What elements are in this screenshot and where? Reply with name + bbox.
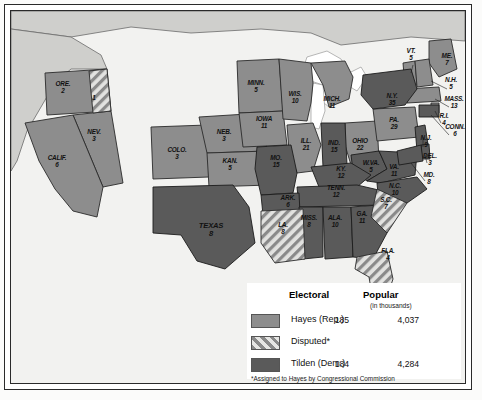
state-indiana: [321, 123, 347, 167]
legend-electoral-hayes: 185: [309, 315, 349, 325]
state-missouri: [255, 145, 297, 195]
legend-swatch-disputed: [251, 336, 280, 350]
legend-label-disputed: Disputed*: [291, 336, 330, 346]
legend-col-popular: Popular: [363, 289, 398, 300]
legend-swatch-tilden: [251, 358, 280, 372]
map-legend: Electoral Popular (in thousands) Hayes (…: [247, 283, 461, 379]
map-inner-frame: ORE.21NEV.3CALIF.6COLO.3NEB.3KAN.5TEXAS8…: [10, 10, 466, 384]
legend-popular-subtitle: (in thousands): [370, 302, 412, 309]
legend-col-electoral: Electoral: [289, 289, 329, 300]
state-iowa: [239, 111, 287, 147]
legend-popular-hayes: 4,037: [377, 315, 419, 325]
legend-electoral-tilden: 184: [309, 359, 349, 369]
map-outer-frame: ORE.21NEV.3CALIF.6COLO.3NEB.3KAN.5TEXAS8…: [4, 4, 472, 390]
state-wisconsin: [279, 59, 313, 121]
state-pennsylvania: [373, 107, 419, 141]
state-alabama: [323, 207, 353, 259]
state-oregon-disputed: [89, 69, 111, 113]
legend-popular-tilden: 4,284: [377, 359, 419, 369]
state-colorado: [151, 125, 209, 179]
state-tennessee: [297, 185, 383, 207]
legend-footnote: *Assigned to Hayes by Congressional Comm…: [251, 375, 395, 382]
legend-swatch-hayes: [251, 314, 280, 328]
state-connecticut: [419, 105, 439, 117]
state-minnesota: [237, 59, 283, 113]
